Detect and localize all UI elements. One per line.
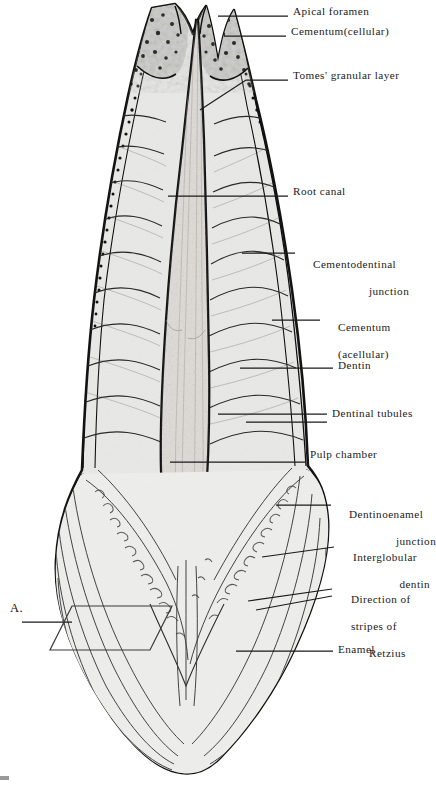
label-cementum-acellular-line1: Cementum xyxy=(338,321,391,333)
label-pulp-chamber: Pulp chamber xyxy=(310,448,377,461)
label-retzius-line1: Direction of xyxy=(351,593,411,605)
label-dentin: Dentin xyxy=(338,359,371,372)
label-dentinal-tubules: Dentinal tubules xyxy=(332,407,413,420)
label-cementum-cellular: Cementum(cellular) xyxy=(291,25,389,38)
enamel-cap xyxy=(40,460,350,785)
label-root-canal: Root canal xyxy=(293,185,346,198)
label-cementodentinal-junction: Cementodentinal junction xyxy=(300,245,396,312)
label-dentinoenamel-junction-line1: Dentinoenamel xyxy=(349,508,423,520)
label-retzius-line2: stripes of xyxy=(351,620,397,632)
corner-tick xyxy=(0,776,9,780)
label-apical-foramen: Apical foramen xyxy=(293,5,369,18)
label-enamel: Enamel xyxy=(338,643,375,656)
label-cementodentinal-junction-line2: junction xyxy=(313,285,409,298)
label-tomes-granular-layer: Tomes' granular layer xyxy=(293,69,399,82)
label-interglobular-dentin-line1: Interglobular xyxy=(353,551,417,563)
label-direction-of-stripes-of-retzius: Direction of stripes of Retzius xyxy=(338,580,411,674)
label-cementodentinal-junction-line1: Cementodentinal xyxy=(313,258,396,270)
panel-marker-A: A. xyxy=(10,601,23,616)
